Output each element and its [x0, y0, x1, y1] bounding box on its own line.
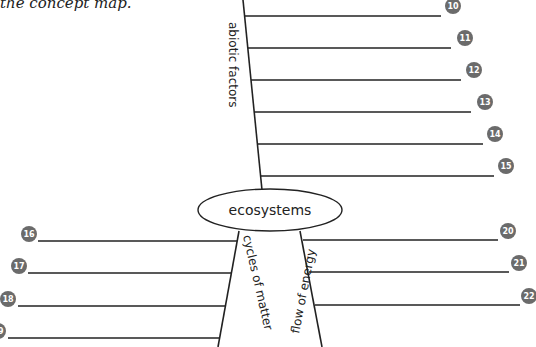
badge-number: 13 — [479, 98, 490, 107]
badge-number: 16 — [23, 230, 35, 239]
badge-number: 21 — [513, 259, 525, 268]
cycles-of-matter-branch: cycles of matter 16 17 18 19 — [0, 226, 276, 347]
ecosystems-node: ecosystems — [198, 189, 342, 231]
badge-number: 19 — [0, 327, 4, 336]
blank-10[interactable]: 10 — [245, 0, 461, 16]
blank-22[interactable]: 22 — [315, 288, 536, 305]
badge-number: 20 — [502, 227, 514, 236]
blank-15[interactable]: 15 — [260, 158, 514, 176]
blank-16[interactable]: 16 — [21, 226, 237, 242]
badge-number: 14 — [489, 130, 501, 139]
badge-number: 12 — [468, 66, 479, 75]
badge-number: 18 — [2, 295, 14, 304]
abiotic-factors-label: abiotic factors — [226, 22, 240, 108]
abiotic-trunk-line — [243, 0, 262, 190]
badge-number: 22 — [523, 292, 534, 301]
badge-number: 15 — [500, 162, 512, 171]
blank-21[interactable]: 21 — [309, 255, 527, 272]
blank-11[interactable]: 11 — [248, 30, 473, 48]
abiotic-factors-branch: abiotic factors 10 11 12 13 — [226, 0, 514, 190]
blank-19[interactable]: 19 — [0, 323, 219, 339]
flow-of-energy-branch: flow of energy 20 21 22 — [288, 223, 536, 347]
center-label: ecosystems — [229, 202, 312, 218]
blank-20[interactable]: 20 — [303, 223, 516, 240]
blank-13[interactable]: 13 — [254, 94, 493, 112]
concept-map: the concept map. abiotic factors 10 11 1… — [0, 0, 536, 347]
cycles-trunk-line — [218, 231, 239, 347]
flow-of-energy-label: flow of energy — [288, 248, 318, 335]
blank-17[interactable]: 17 — [11, 258, 231, 274]
blank-18[interactable]: 18 — [0, 291, 225, 307]
badge-number: 17 — [13, 262, 24, 271]
cycles-of-matter-label: cycles of matter — [240, 234, 276, 332]
badge-number: 10 — [447, 2, 459, 11]
blank-12[interactable]: 12 — [251, 62, 482, 80]
blank-14[interactable]: 14 — [257, 126, 503, 144]
badge-number: 11 — [459, 34, 471, 43]
